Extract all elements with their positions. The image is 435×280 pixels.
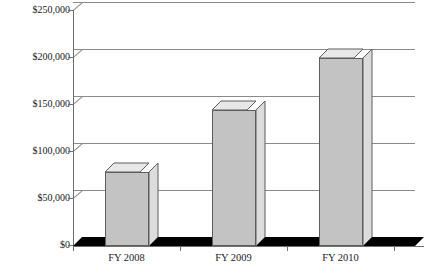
bar-fy-2010[interactable] — [319, 58, 363, 246]
bar-chart: $250,000 $200,000 $150,000 $100,000 $50,… — [0, 0, 435, 280]
x-tick-mark — [394, 246, 395, 251]
bar-top-shape — [105, 163, 149, 172]
x-tick-mark — [287, 246, 288, 251]
y-tick-100000: $100,000 — [0, 146, 70, 156]
x-tick-label-fy-2010: FY 2010 — [287, 252, 394, 263]
y-tick-label: $50,000 — [6, 193, 70, 203]
x-tick-mark — [180, 246, 181, 251]
x-tick-label-fy-2008: FY 2008 — [73, 252, 180, 263]
y-tick-0: $0 — [0, 240, 70, 250]
y-axis-line — [73, 10, 74, 246]
bar-top-shape — [212, 101, 256, 110]
y-tick-label: $200,000 — [6, 52, 70, 62]
bar-front-face — [105, 172, 149, 246]
bar-top-shape — [319, 49, 363, 58]
x-axis-line — [73, 246, 424, 247]
gridline-250000 — [73, 2, 415, 3]
y-tick-label: $0 — [6, 240, 70, 250]
bar-fy-2009[interactable] — [212, 110, 256, 246]
bar-side-face — [363, 49, 372, 246]
y-tick-label: $100,000 — [6, 146, 70, 156]
bar-top-face — [105, 163, 149, 172]
y-tick-250000: $250,000 — [0, 5, 70, 15]
bar-top-face — [212, 101, 256, 110]
x-tick-mark — [73, 246, 74, 251]
bar-side-face — [149, 163, 158, 246]
y-tick-200000: $200,000 — [0, 52, 70, 62]
bar-top-face — [319, 49, 363, 58]
bar-side-shape — [149, 163, 158, 246]
y-tick-150000: $150,000 — [0, 99, 70, 109]
bar-side-shape — [256, 101, 265, 246]
gridline-riser — [73, 104, 82, 113]
x-tick-label-fy-2009: FY 2009 — [180, 252, 287, 263]
y-tick-label: $150,000 — [6, 99, 70, 109]
y-tick-50000: $50,000 — [0, 193, 70, 203]
y-tick-label: $250,000 — [6, 5, 70, 15]
bar-front-face — [319, 58, 363, 246]
gridline-riser — [73, 151, 82, 160]
gridline-riser — [73, 10, 82, 19]
bar-side-face — [256, 101, 265, 246]
bar-fy-2008[interactable] — [105, 172, 149, 246]
gridline-riser — [73, 57, 82, 66]
bar-front-face — [212, 110, 256, 246]
bar-side-shape — [363, 49, 372, 246]
gridline-riser — [73, 198, 82, 207]
